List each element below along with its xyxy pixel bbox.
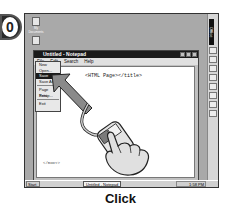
instruction-caption: Click: [0, 191, 241, 206]
instruction-overlay: [0, 0, 241, 208]
